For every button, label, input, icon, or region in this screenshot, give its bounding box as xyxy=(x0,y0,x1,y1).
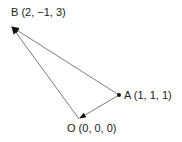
point-a-dot xyxy=(117,93,121,97)
point-o-label: O (0, 0, 0) xyxy=(67,122,117,134)
vector-ab-arrow xyxy=(12,27,119,95)
point-a-label: A (1, 1, 1) xyxy=(124,89,172,101)
vector-ob-arrow xyxy=(12,27,79,119)
point-b-label: B (2, −1, 3) xyxy=(11,6,66,18)
vector-ao-arrow xyxy=(80,95,119,118)
vector-triangle-diagram xyxy=(0,0,182,142)
